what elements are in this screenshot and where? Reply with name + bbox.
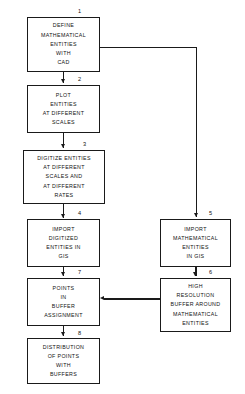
flow-node-7-number: 7 [78, 269, 81, 275]
flow-node-5-number: 5 [209, 210, 212, 216]
flow-node-3: DIGITIZE ENTITIES AT DIFFERENT SCALES AN… [23, 150, 105, 204]
wire-6-to-7 [104, 298, 160, 299]
flow-node-2: PLOT ENTITIES AT DIFFERENT SCALES [27, 85, 100, 133]
flow-node-6-label: HIGH RESOLUTION BUFFER AROUND MATHEMATIC… [169, 282, 223, 328]
flow-node-6-number: 6 [209, 269, 212, 275]
arrowhead-7-to-8 [61, 332, 65, 336]
wire-1-to-5-vertical [196, 47, 197, 217]
arrowhead-5-to-6 [193, 272, 197, 276]
flow-node-7-label: POINTS IN BUFFER ASSIGNMENT [42, 284, 85, 321]
arrowhead-3-to-4 [61, 214, 65, 218]
flow-node-5: IMPORT MATHEMATICAL ENTITIES IN GIS [160, 219, 231, 267]
flow-node-3-number: 3 [83, 141, 86, 147]
flow-node-8-number: 8 [78, 330, 81, 336]
flow-node-1-label: DEFINE MATHEMATICAL ENTITIES WITH CAD [39, 21, 88, 67]
flow-node-1-number: 1 [78, 8, 81, 14]
flow-node-3-label: DIGITIZE ENTITIES AT DIFFERENT SCALES AN… [35, 154, 93, 200]
flow-node-6: HIGH RESOLUTION BUFFER AROUND MATHEMATIC… [160, 278, 231, 332]
arrowhead-2-to-3 [61, 144, 65, 148]
arrowhead-1-to-2 [61, 79, 65, 83]
flow-node-4-label: IMPORT DIGITIZED ENTITIES IN GIS [44, 225, 82, 262]
flow-node-5-label: IMPORT MATHEMATICAL ENTITIES IN GIS [171, 225, 220, 262]
flow-node-4: IMPORT DIGITIZED ENTITIES IN GIS [27, 219, 100, 267]
flow-node-2-label: PLOT ENTITIES AT DIFFERENT SCALES [41, 91, 87, 128]
flow-node-8-label: DISTRIBUTION OF POINTS WITH BUFFERS [41, 343, 87, 380]
arrowhead-4-to-7 [61, 272, 65, 276]
flow-node-2-number: 2 [78, 76, 81, 82]
flow-node-7: POINTS IN BUFFER ASSIGNMENT [27, 278, 100, 326]
wire-1-to-5-horizontal [99, 47, 197, 48]
arrowhead-1-to-5 [194, 213, 198, 217]
flow-node-1: DEFINE MATHEMATICAL ENTITIES WITH CAD [27, 17, 100, 72]
flowchart-canvas: DEFINE MATHEMATICAL ENTITIES WITH CAD 1 … [0, 0, 245, 394]
arrowhead-6-to-7 [100, 296, 104, 300]
flow-node-4-number: 4 [78, 210, 81, 216]
flow-node-8: DISTRIBUTION OF POINTS WITH BUFFERS [27, 338, 100, 384]
